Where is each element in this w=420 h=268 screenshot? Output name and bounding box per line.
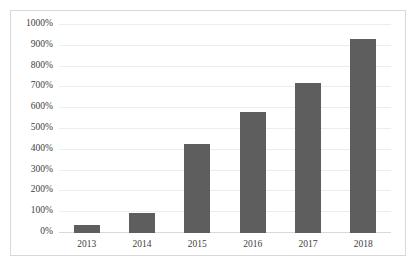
bar-group: 2014 bbox=[114, 25, 169, 233]
y-axis-tick-label: 1000% bbox=[26, 19, 53, 29]
chart-container: 0%100%200%300%400%500%600%700%800%900%10… bbox=[10, 10, 406, 256]
y-axis-tick-label: 600% bbox=[31, 102, 53, 112]
y-axis-tick-label: 400% bbox=[31, 144, 53, 154]
bar-series: 201320142015201620172018 bbox=[59, 25, 391, 233]
bar-group: 2018 bbox=[336, 25, 391, 233]
bar[interactable] bbox=[129, 213, 155, 233]
y-axis-tick-label: 100% bbox=[31, 206, 53, 216]
x-axis-tick-label: 2015 bbox=[188, 240, 207, 250]
bar[interactable] bbox=[184, 144, 210, 233]
bar-group: 2017 bbox=[280, 25, 335, 233]
bar[interactable] bbox=[295, 83, 321, 233]
y-axis-tick-label: 500% bbox=[31, 123, 53, 133]
bar[interactable] bbox=[240, 112, 266, 233]
bar-group: 2016 bbox=[225, 25, 280, 233]
x-axis-tick-label: 2016 bbox=[243, 240, 262, 250]
bar-group: 2013 bbox=[59, 25, 114, 233]
y-axis-tick-label: 900% bbox=[31, 40, 53, 50]
y-axis-tick-label: 700% bbox=[31, 82, 53, 92]
x-axis-tick-label: 2018 bbox=[354, 240, 373, 250]
y-axis-tick-label: 200% bbox=[31, 186, 53, 196]
x-axis-tick-label: 2014 bbox=[132, 240, 151, 250]
bar[interactable] bbox=[74, 225, 100, 233]
bar[interactable] bbox=[350, 39, 376, 233]
x-axis-tick-label: 2017 bbox=[298, 240, 317, 250]
plot-area: 0%100%200%300%400%500%600%700%800%900%10… bbox=[59, 25, 391, 233]
bar-group: 2015 bbox=[170, 25, 225, 233]
y-axis-tick-label: 0% bbox=[40, 227, 53, 237]
y-axis-tick-label: 800% bbox=[31, 61, 53, 71]
y-axis-tick-label: 300% bbox=[31, 165, 53, 175]
x-axis-tick-label: 2013 bbox=[77, 240, 96, 250]
